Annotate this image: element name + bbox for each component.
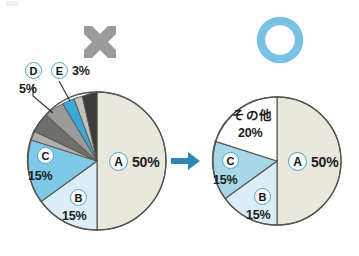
good-chart-key-a: A: [288, 152, 307, 171]
good-chart-other-label: その他: [232, 110, 273, 123]
bad-chart-key-b: B: [70, 189, 87, 206]
bad-callout-line-e: [59, 81, 70, 101]
bad-chart-key-e: E: [51, 62, 68, 79]
bad-chart-percent-a: 50%: [132, 155, 159, 169]
bad-chart-key-a: A: [109, 152, 128, 171]
good-chart-percent-b: 15%: [246, 209, 270, 222]
bad-chart-key-d-letter: D: [30, 65, 38, 77]
good-chart-key-a-letter: A: [293, 155, 302, 169]
bad-chart-key-d: D: [25, 62, 42, 79]
good-chart-key-c-letter: C: [227, 155, 235, 167]
o-mark-icon: [261, 21, 299, 59]
right-arrow-icon: [171, 152, 200, 170]
bad-chart-percent-d: 5%: [19, 83, 37, 96]
charts-graphics: [0, 0, 359, 256]
bad-chart-percent-c: 15%: [28, 170, 52, 183]
bad-chart-key-c: C: [37, 147, 54, 164]
good-chart-key-b: B: [254, 188, 271, 205]
good-chart-key-c: C: [222, 152, 239, 169]
bad-chart-key-b-letter: B: [75, 192, 83, 204]
good-chart-percent-a: 50%: [311, 155, 338, 169]
bad-chart-key-e-letter: E: [56, 65, 63, 77]
bad-chart-percent-b: 15%: [62, 210, 86, 223]
infographic-canvas: A 50% B 15% C 15% D 5% E 3% A 50% B 15% …: [0, 0, 359, 256]
good-chart-other-percent: 20%: [238, 127, 262, 140]
bad-chart-key-c-letter: C: [42, 150, 50, 162]
bad-chart-percent-e: 3%: [72, 65, 90, 78]
x-mark-icon: [84, 26, 116, 58]
bad-chart-key-a-letter: A: [114, 155, 123, 169]
good-chart-key-b-letter: B: [259, 191, 267, 203]
good-chart-percent-c: 15%: [213, 174, 237, 187]
